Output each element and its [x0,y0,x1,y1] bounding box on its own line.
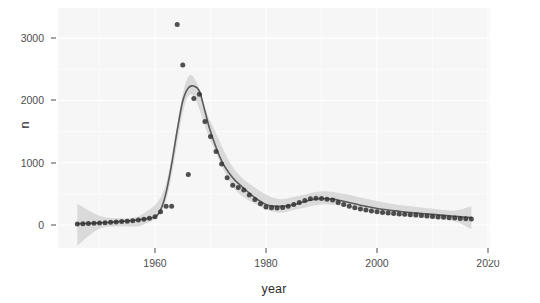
data-point [169,204,174,209]
y-tick-label-1000: 1000 [0,157,44,169]
data-point [80,221,85,226]
y-tick-mark-2000 [51,100,56,101]
data-point [114,219,119,224]
x-tick-mark-2020 [488,248,489,253]
data-point [247,193,252,198]
x-tick-label-1960: 1960 [143,257,166,269]
data-point [380,210,385,215]
data-point [369,208,374,213]
data-point [275,206,280,211]
data-point [208,134,213,139]
data-point [424,213,429,218]
data-point [397,211,402,216]
data-point [430,214,435,219]
data-point [302,198,307,203]
data-point [408,212,413,217]
data-point [402,212,407,217]
data-point [252,197,257,202]
y-tick-mark-1000 [51,162,56,163]
data-point [269,205,274,210]
data-point [230,183,235,188]
data-point [458,216,463,221]
data-point [125,219,130,224]
data-point [86,221,91,226]
data-point [130,218,135,223]
data-point [352,205,357,210]
chart-root: n 0 1000 2000 3000 1960 1980 2000 2020 y… [0,0,540,303]
data-points-group [75,22,474,226]
data-point [103,220,108,225]
data-point [197,92,202,97]
data-point [219,161,224,166]
data-point [452,216,457,221]
data-point [330,198,335,203]
data-point [286,204,291,209]
data-point [375,209,380,214]
x-tick-mark-1980 [266,248,267,253]
data-point [258,201,263,206]
data-point [441,215,446,220]
data-point [341,202,346,207]
x-axis-title: year [58,282,490,296]
data-point [297,200,302,205]
x-tick-label-1980: 1980 [254,257,277,269]
data-point [158,209,163,214]
data-point [336,200,341,205]
data-point [180,62,185,67]
data-point [141,217,146,222]
data-point [308,196,313,201]
data-point [164,204,169,209]
y-tick-label-0: 0 [0,219,44,231]
data-point [325,197,330,202]
data-point [363,208,368,213]
data-point [264,204,269,209]
data-point [147,216,152,221]
data-point [463,216,468,221]
data-point [319,196,324,201]
data-point [186,172,191,177]
y-tick-mark-3000 [51,38,56,39]
plot-svg [58,8,490,248]
data-point [108,220,113,225]
data-point [413,213,418,218]
data-point [75,221,80,226]
data-point [436,214,441,219]
data-point [175,22,180,27]
x-tick-mark-1960 [155,248,156,253]
data-point [391,211,396,216]
data-point [136,218,141,223]
data-point [358,207,363,212]
y-tick-label-3000: 3000 [0,32,44,44]
y-axis-title: n [18,108,32,142]
data-point [291,202,296,207]
data-point [386,211,391,216]
data-point [419,213,424,218]
data-point [280,205,285,210]
data-point [191,96,196,101]
x-tick-mark-2000 [377,248,378,253]
x-tick-label-2000: 2000 [365,257,388,269]
data-point [241,188,246,193]
y-tick-mark-0 [51,225,56,226]
data-point [313,196,318,201]
data-point [236,185,241,190]
y-tick-label-2000: 2000 [0,94,44,106]
plot-panel [58,8,490,248]
data-point [214,149,219,154]
data-point [447,215,452,220]
right-edge-mask [490,0,540,260]
data-point [469,217,474,222]
data-point [202,119,207,124]
data-point [153,214,158,219]
data-point [347,204,352,209]
data-point [97,220,102,225]
data-point [225,175,230,180]
data-point [119,219,124,224]
data-point [91,221,96,226]
